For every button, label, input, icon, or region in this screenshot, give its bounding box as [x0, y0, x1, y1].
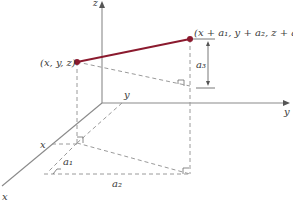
z-axis-label: z — [92, 0, 98, 8]
right-angle-marker-a1 — [53, 169, 61, 174]
end-point — [187, 36, 193, 42]
a3-arrow-up-icon — [206, 41, 210, 46]
displacement-vector — [77, 39, 190, 62]
a3-arrow-down-icon — [206, 81, 210, 86]
a1-label: a₁ — [63, 156, 73, 167]
x-axis-label: x — [2, 191, 8, 202]
base-diagonal-line — [77, 143, 190, 174]
start-point-label: (x, y, z) — [40, 57, 76, 68]
z-axis-arrow-icon — [99, 1, 105, 8]
vector-components-diagram: z y x (x, y, z) (x + a₁, y + a₂, z + a₃)… — [0, 0, 293, 208]
a2-label: a₂ — [112, 178, 122, 189]
y-coordinate-label: y — [123, 89, 130, 100]
right-angle-marker-top — [178, 80, 184, 86]
x-coordinate-label: x — [40, 139, 46, 150]
y-axis-label: y — [283, 106, 290, 117]
y-projection-line — [77, 103, 122, 143]
a3-label: a₃ — [196, 59, 206, 70]
end-point-label: (x + a₁, y + a₂, z + a₃) — [194, 27, 293, 38]
parallel-line-top — [77, 62, 190, 86]
